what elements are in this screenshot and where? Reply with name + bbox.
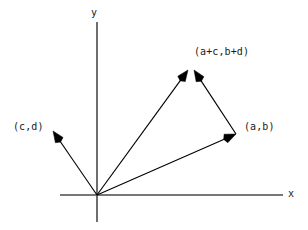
- vector-sum-shaft: [97, 76, 183, 195]
- vector-diagram-canvas: [0, 0, 308, 230]
- vector-c-d-translated-shaft: [198, 77, 236, 134]
- x-axis-label: x: [288, 188, 294, 200]
- vector-a-b: [97, 134, 236, 195]
- vector-sum-arrowhead: [178, 70, 188, 82]
- vector-c-d-translated-arrowhead: [194, 70, 204, 82]
- label-vector-c-d: (c,d): [13, 121, 44, 133]
- vector-sum: [97, 70, 188, 195]
- y-axis-label: y: [91, 7, 97, 19]
- label-vector-a-b: (a,b): [244, 121, 275, 133]
- vector-c-d: [53, 131, 97, 195]
- label-vector-sum: (a+c,b+d): [194, 46, 249, 58]
- vector-diagram-figure: (a+c,b+d) (a,b) (c,d) y x: [0, 0, 308, 230]
- vector-c-d-translated: [194, 70, 236, 134]
- vector-c-d-shaft: [57, 138, 97, 195]
- vector-c-d-arrowhead: [53, 131, 63, 143]
- vector-a-b-arrowhead: [224, 134, 236, 143]
- vector-a-b-shaft: [97, 137, 229, 195]
